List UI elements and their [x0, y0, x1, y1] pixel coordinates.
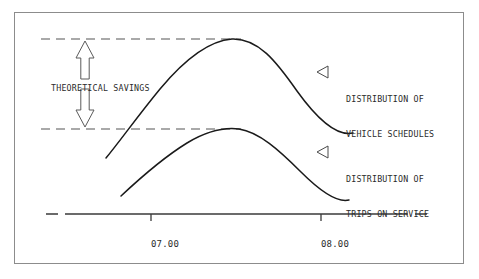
- legend-vehicle-line1: DISTRIBUTION OF: [346, 94, 434, 106]
- legend-trips-line1: DISTRIBUTION OF: [346, 174, 429, 186]
- legend-vehicle-schedules: DISTRIBUTION OF VEHICLE SCHEDULES: [346, 71, 434, 163]
- figure-frame: THEORETICAL SAVINGS DISTRIBUTION OF VEHI…: [14, 12, 464, 264]
- callout-pointer-trips-icon: [317, 146, 328, 158]
- curve-trips-on-service: [121, 129, 349, 201]
- axis-tick-label-0700: 07.00: [141, 239, 189, 249]
- legend-trips-on-service: DISTRIBUTION OF TRIPS ON SERVICE: [346, 151, 429, 243]
- legend-trips-line2: TRIPS ON SERVICE: [346, 209, 429, 221]
- savings-arrow-up: [76, 41, 94, 79]
- figure-root: THEORETICAL SAVINGS DISTRIBUTION OF VEHI…: [0, 0, 479, 279]
- theoretical-savings-label: THEORETICAL SAVINGS: [51, 83, 150, 93]
- callout-pointer-vehicle-icon: [317, 66, 328, 78]
- curve-vehicle-schedules: [106, 39, 353, 158]
- savings-arrow-down: [76, 89, 94, 127]
- legend-vehicle-line2: VEHICLE SCHEDULES: [346, 129, 434, 141]
- axis-tick-label-0800: 08.00: [311, 239, 359, 249]
